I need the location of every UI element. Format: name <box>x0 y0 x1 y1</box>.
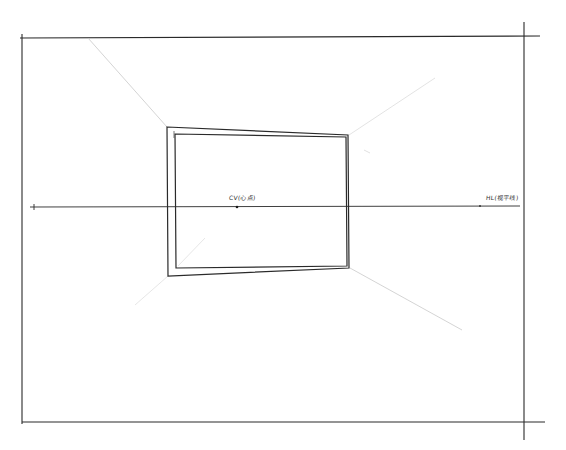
perspective-drawing <box>0 0 566 450</box>
paper-background <box>0 0 566 450</box>
center-of-vision-point <box>236 206 239 209</box>
horizon-line-label: HL(视平线) <box>486 193 520 202</box>
horizon-right-mark <box>479 205 481 207</box>
center-of-vision-label: CV(心点) <box>229 193 257 202</box>
